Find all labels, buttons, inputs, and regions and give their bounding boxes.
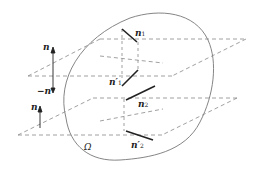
vertical-connectors xyxy=(122,29,138,131)
arrow-up-icon xyxy=(51,47,55,53)
label-minus-n: −n xyxy=(37,87,51,96)
label-n-bottom: n xyxy=(31,103,38,112)
segment-n1-prime xyxy=(122,70,138,86)
label-n1-prime: n′1 xyxy=(109,78,122,87)
label-n-top: n xyxy=(43,43,50,52)
arrow-up-icon-bottom xyxy=(38,106,42,112)
label-n1: n1 xyxy=(135,29,145,38)
label-n2: n2 xyxy=(138,100,148,109)
normal-segments xyxy=(122,29,155,140)
lower-plane xyxy=(18,98,237,135)
segment-n2-prime xyxy=(126,131,153,140)
label-n2-prime: n′2 xyxy=(131,141,144,150)
diagram: n −n n n1 n′1 n2 n′2 Ω xyxy=(0,0,260,172)
arrow-down-icon xyxy=(51,88,55,93)
label-region-omega: Ω xyxy=(84,143,91,152)
